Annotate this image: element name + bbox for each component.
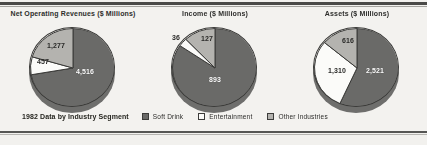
legend-item-soft-drink: Soft Drink [142,113,184,120]
legend-label: Soft Drink [153,113,184,120]
pie-chart-net-operating-revenues: 4,516 457 1,277 [27,24,119,110]
pie-chart-income: 893 36 127 [169,24,261,110]
pie-disc [29,27,115,107]
charts-row: Net Operating Revenues ($ Millions) 4,51… [0,7,427,112]
legend-swatch-icon [198,113,205,120]
legend-swatch-icon [267,113,274,120]
legend-inner: 1982 Data by Industry Segment Soft Drink… [22,113,343,120]
chart-panel-net-operating-revenues: Net Operating Revenues ($ Millions) 4,51… [2,7,144,112]
legend-bar: 1982 Data by Industry Segment Soft Drink… [0,112,427,128]
pie-chart-assets: 2,521 1,310 616 [311,24,403,110]
legend-label: Entertainment [209,113,252,120]
figure-caption: 1982 Data by Industry Segment [22,113,129,120]
legend-item-entertainment: Entertainment [198,113,252,120]
bottom-rule [0,131,427,133]
industry-segment-pie-figure: Net Operating Revenues ($ Millions) 4,51… [0,0,427,145]
slice-label-soft-drink: 4,516 [76,68,94,75]
legend-swatch-icon [142,113,149,120]
slice-label-soft-drink: 2,521 [366,67,384,74]
top-rule [0,2,427,5]
bottom-rule-hairline [0,134,427,135]
chart-panel-income: Income ($ Millions) 893 36 127 [144,7,286,112]
legend-label: Other Industries [278,113,327,120]
slice-label-other-industries: 616 [342,37,354,44]
slice-label-entertainment: 36 [172,34,180,41]
slice-label-other-industries: 127 [201,35,213,42]
slice-label-entertainment: 1,310 [328,67,346,74]
chart-title: Income ($ Millions) [144,10,286,17]
slice-label-entertainment: 457 [37,58,49,65]
pie-disc [313,27,399,107]
legend-item-other-industries: Other Industries [267,113,327,120]
chart-title: Net Operating Revenues ($ Millions) [2,10,144,17]
chart-title: Assets ($ Millions) [286,10,427,17]
slice-label-other-industries: 1,277 [47,42,65,49]
slice-label-soft-drink: 893 [209,76,221,83]
chart-panel-assets: Assets ($ Millions) 2,521 1,310 616 [286,7,427,112]
pie-disc [171,27,257,107]
